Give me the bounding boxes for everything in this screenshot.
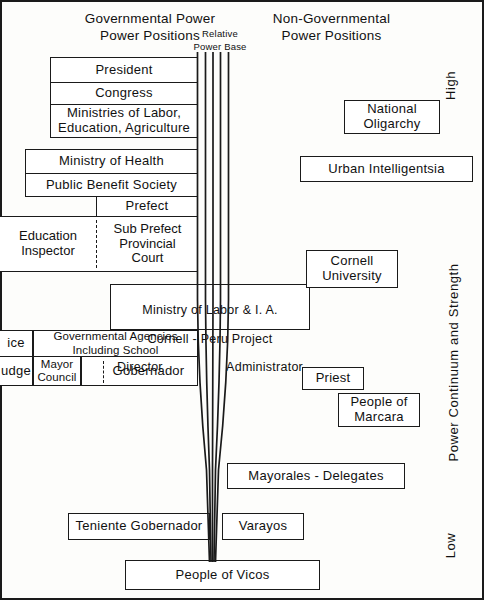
box-ministry-of-health: Ministry of Health [25,149,198,174]
box-priest: Priest [302,367,364,390]
box-mayorales-delegates: Mayorales - Delegates [227,463,405,489]
box-congress: Congress [50,82,198,105]
box-judge: udge [0,356,33,386]
box-mayor-council: Mayor Council [33,356,81,386]
axis-label-low: Low [443,516,458,576]
bridge-line-1: Ministry of Labor & I. A. [111,300,309,317]
bridge-role-administrator: Administrator [226,360,303,374]
box-prefect: Prefect [96,196,198,217]
box-urban-intelligentsia: Urban Intelligentsia [300,156,473,182]
box-varayos: Varayos [222,513,304,540]
bridge-line-2: Cornell - Peru Project [111,332,309,346]
header-non-governmental-power-positions: Non-Governmental Power Positions [244,10,419,45]
box-people-of-marcara: People of Marcara [338,393,420,427]
separator-mayor-gobernador [103,361,104,383]
box-public-benefit-society: Public Benefit Society [25,173,198,197]
box-teniente-gobernador: Teniente Gobernador [68,513,210,540]
box-education-inspector: Education Inspector [0,216,96,272]
axis-label-high: High [443,56,458,116]
box-ministry-labor-cornell-peru-project: Ministry of Labor & I. A. Cornell - Peru… [110,284,310,330]
bridge-role-director: Director [117,360,163,374]
box-sub-prefect: Sub Prefect Provincial Court [97,216,198,272]
box-people-of-vicos: People of Vicos [125,560,320,590]
box-ministries: Ministries of Labor, Education, Agricult… [50,104,198,138]
box-cornell-university: Cornell University [306,250,398,288]
box-national-oligarchy: National Oligarchy [344,100,440,134]
box-police: ice [0,330,33,357]
axis-label-power-continuum: Power Continuum and Strength [446,198,461,528]
power-structure-diagram: Governmental Power Power Positions Relat… [0,0,484,600]
box-president: President [50,57,198,83]
